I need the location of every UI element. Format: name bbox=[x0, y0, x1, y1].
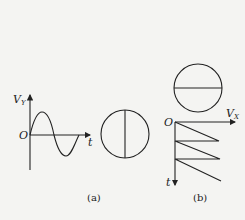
origin-label: O bbox=[164, 116, 173, 129]
figure-a: VY O t (a) bbox=[13, 93, 149, 203]
t-label: t bbox=[166, 176, 171, 189]
sawtooth-wave bbox=[175, 122, 221, 181]
sine-wave bbox=[30, 112, 79, 156]
origin-label: O bbox=[19, 129, 28, 142]
caption-a: (a) bbox=[87, 192, 101, 203]
oscilloscope-diagram: VY O t (a) VX O t (b) bbox=[0, 0, 245, 220]
t-label: t bbox=[88, 136, 93, 149]
figure-b: VX O t (b) bbox=[164, 64, 240, 203]
vy-label: VY bbox=[13, 93, 27, 107]
vx-label: VX bbox=[226, 107, 240, 121]
caption-b: (b) bbox=[193, 192, 207, 203]
